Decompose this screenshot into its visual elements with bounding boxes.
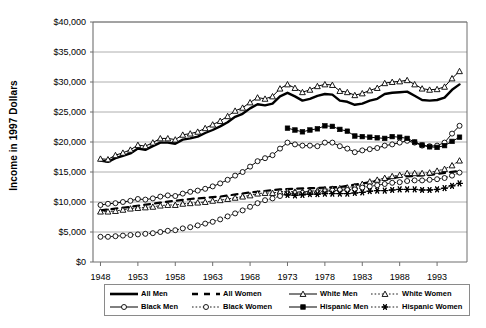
data-marker-star [456,181,463,187]
data-marker-circle [412,178,417,183]
legend-item: Black Women [190,300,287,313]
data-marker-star [449,183,456,189]
data-marker-triangle [217,118,223,123]
data-marker-circle [135,232,140,237]
legend-item-label: White Women [401,289,451,298]
data-marker-circle [180,226,185,231]
data-marker-circle [435,177,440,182]
legend-row-1: All MenAll WomenWhite MenWhite Women [108,287,466,300]
data-marker-star [381,188,388,194]
data-marker-circle [122,304,127,309]
data-marker-circle [270,153,275,158]
x-axis-tick-label: 1968 [240,272,260,282]
data-marker-circle [375,183,380,188]
data-marker-square [330,124,335,129]
data-marker-square [382,136,387,141]
data-marker-triangle [404,77,410,82]
data-marker-triangle [292,85,298,90]
data-marker-circle [128,198,133,203]
data-marker-circle [427,177,432,182]
data-marker-triangle [195,129,201,134]
data-marker-circle [292,142,297,147]
legend-item: All Men [108,287,190,300]
data-marker-circle [360,148,365,153]
data-marker-circle [210,184,215,189]
data-marker-square [323,124,328,129]
data-marker-triangle [359,91,365,96]
data-marker-circle [352,187,357,192]
data-marker-circle [360,185,365,190]
data-marker-star [441,185,448,191]
data-marker-square [375,136,380,141]
data-marker-circle [270,196,275,201]
data-marker-circle [165,193,170,198]
data-marker-star [426,187,433,193]
data-marker-square [457,135,462,140]
data-marker-circle [113,201,118,206]
data-marker-square [293,128,298,133]
data-marker-circle [278,146,283,151]
data-marker-triangle [382,175,388,180]
data-marker-circle [225,177,230,182]
data-marker-square [367,135,372,140]
data-marker-circle [263,198,268,203]
axes [90,22,467,266]
data-marker-triangle [247,100,253,105]
data-marker-square [360,134,365,139]
data-marker-circle [150,196,155,201]
data-marker-circle [158,194,163,199]
legend-item: Hispanic Men [287,300,369,313]
legend-glyph [369,301,401,313]
data-marker-circle [263,156,268,161]
x-axis-tick-label: 1948 [90,272,110,282]
data-marker-circle [255,159,260,164]
data-marker-triangle [389,173,395,178]
data-marker-circle [188,225,193,230]
data-marker-circle [375,146,380,151]
data-marker-circle [367,147,372,152]
data-marker-circle [285,140,290,145]
data-marker-square [308,128,313,133]
data-marker-circle [233,173,238,178]
data-marker-circle [98,203,103,208]
data-marker-circle [307,143,312,148]
data-marker-triangle [374,85,380,90]
data-marker-circle [225,214,230,219]
legend-item-label: White Men [319,289,358,298]
data-marker-circle [165,228,170,233]
data-marker-circle [345,146,350,151]
data-marker-circle [203,221,208,226]
x-axis-tick-label: 1953 [128,272,148,282]
data-marker-triangle [307,87,313,92]
data-marker-triangle [135,142,141,147]
legend-glyph [108,301,140,313]
data-marker-circle [98,234,103,239]
data-marker-circle [113,234,118,239]
legend-item: White Men [287,287,369,300]
x-axis-tick-labels: 1948195319581963196819731978198319881993 [0,266,486,282]
data-marker-circle [322,140,327,145]
data-marker-circle [240,208,245,213]
legend-row-2: Black MenBlack WomenHispanic MenHispanic… [108,300,466,313]
data-marker-square [345,129,350,134]
data-marker-circle [352,150,357,155]
data-marker-circle [233,211,238,216]
data-marker-circle [218,217,223,222]
data-marker-circle [158,230,163,235]
data-marker-square [390,134,395,139]
data-marker-circle [450,131,455,136]
data-marker-circle [255,201,260,206]
data-marker-triangle [255,95,261,100]
data-marker-circle [345,188,350,193]
data-marker-triangle [210,198,216,203]
legend-glyph [108,288,140,300]
data-marker-square [442,143,447,148]
data-marker-square [338,127,343,132]
data-marker-circle [315,144,320,149]
data-marker-circle [173,228,178,233]
data-marker-square [397,135,402,140]
data-marker-triangle [225,113,231,118]
data-marker-circle [390,142,395,147]
chart-legend: All MenAll WomenWhite MenWhite Women Bla… [104,284,470,316]
data-marker-triangle [240,105,246,110]
